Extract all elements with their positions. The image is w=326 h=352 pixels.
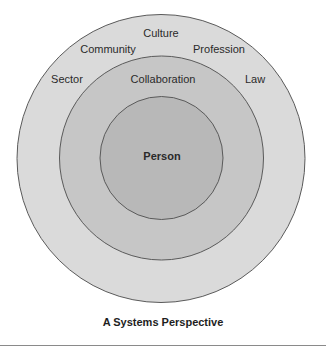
label-profession: Profession	[193, 44, 245, 55]
label-collaboration: Collaboration	[131, 74, 196, 85]
label-culture: Culture	[143, 28, 178, 39]
divider-line	[0, 345, 326, 346]
concentric-circles-graphic	[0, 0, 326, 352]
label-person: Person	[143, 151, 180, 162]
label-sector: Sector	[51, 74, 83, 85]
diagram-caption: A Systems Perspective	[0, 316, 326, 328]
systems-perspective-diagram: Culture Community Profession Sector Coll…	[0, 0, 326, 352]
label-law: Law	[245, 74, 265, 85]
label-community: Community	[80, 44, 136, 55]
